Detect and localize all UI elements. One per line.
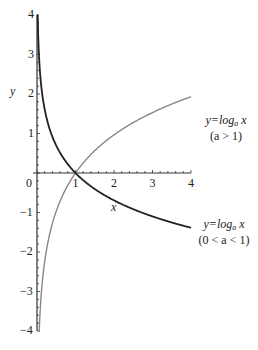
x-tick-label: 4 [188, 177, 194, 190]
x-tick-label: 1 [73, 177, 79, 190]
label-var: x [236, 217, 244, 231]
label-condition: (a > 1) [210, 129, 242, 143]
x-tick-label: 0 [26, 177, 32, 190]
x-tick-label: 2 [111, 177, 117, 190]
lower-curve-label: y=loga x (0 < a < 1) [191, 218, 257, 247]
log-chart [0, 0, 258, 350]
y-tick-label: 3 [28, 48, 34, 61]
y-tick-label: −4 [20, 324, 33, 337]
y-tick-label: 4 [28, 8, 34, 21]
y-tick-label: 1 [28, 127, 34, 140]
label-condition: (0 < a < 1) [199, 233, 250, 247]
upper-curve-label: y=loga x (a > 1) [195, 114, 257, 143]
label-var: x [238, 113, 246, 127]
label-func: y=log [205, 113, 234, 127]
y-tick-label: −1 [20, 206, 33, 219]
x-tick-label: 3 [150, 177, 156, 190]
y-axis-label: y [10, 85, 15, 98]
y-tick-label: 2 [28, 87, 34, 100]
x-axis-label: x [111, 201, 116, 214]
label-func: y=log [203, 217, 232, 231]
y-tick-label: −2 [20, 245, 33, 258]
y-tick-label: −3 [20, 285, 33, 298]
